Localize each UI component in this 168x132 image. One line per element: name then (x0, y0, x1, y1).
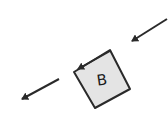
incoming-arrow (132, 19, 167, 41)
outgoing-arrow (22, 79, 59, 99)
block-b: B (74, 50, 130, 108)
diagram-canvas: B (0, 0, 168, 132)
